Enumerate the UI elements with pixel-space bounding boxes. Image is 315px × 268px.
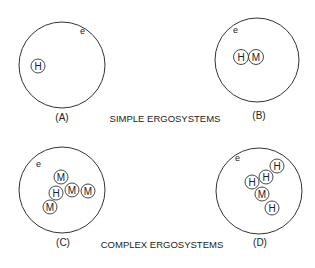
node-a-1: H: [31, 59, 45, 73]
node-c-2: H: [49, 186, 63, 200]
environment-label-a: e: [80, 26, 85, 36]
panel-label-c: (C): [56, 237, 70, 248]
node-label: H: [34, 61, 41, 72]
panel-c: e M H M M M (C): [19, 147, 105, 248]
node-c-4: M: [81, 184, 95, 198]
node-label: H: [52, 188, 59, 199]
node-label: M: [258, 189, 266, 200]
environment-label-c: e: [36, 159, 41, 169]
node-label: M: [84, 186, 92, 197]
node-label: M: [57, 172, 65, 183]
panel-label-b: (B): [252, 110, 265, 121]
panel-b: e H M (B): [215, 18, 299, 121]
node-c-5: M: [43, 200, 57, 214]
environment-label-d: e: [235, 153, 240, 163]
node-d-3: H: [245, 175, 259, 189]
panel-label-d: (D): [253, 237, 267, 248]
node-label: M: [46, 202, 54, 213]
panel-a: e H (A): [19, 22, 105, 123]
caption-simple-ergosystems: SIMPLE ERGOSYSTEMS: [110, 113, 221, 124]
node-label: H: [268, 203, 275, 214]
node-label: H: [262, 172, 269, 183]
node-d-5: H: [265, 201, 279, 215]
node-c-3: M: [65, 183, 79, 197]
ergosystems-diagram: e H (A) e H M (B) SIMPLE ERGOSYSTEMS e M: [0, 0, 315, 268]
node-b-2: M: [249, 50, 264, 65]
node-label: M: [68, 185, 76, 196]
environment-label-b: e: [233, 25, 238, 35]
node-d-4: M: [255, 187, 269, 201]
node-label: H: [237, 52, 244, 63]
panel-label-a: (A): [55, 112, 68, 123]
node-label: M: [252, 52, 260, 63]
node-c-1: M: [54, 170, 68, 184]
panel-d: e H H H M H (D): [216, 148, 302, 248]
node-label: H: [273, 161, 280, 172]
node-b-1: H: [234, 50, 249, 65]
node-d-2: H: [259, 170, 273, 184]
caption-complex-ergosystems: COMPLEX ERGOSYSTEMS: [101, 239, 223, 250]
node-label: H: [248, 177, 255, 188]
node-d-1: H: [270, 159, 284, 173]
